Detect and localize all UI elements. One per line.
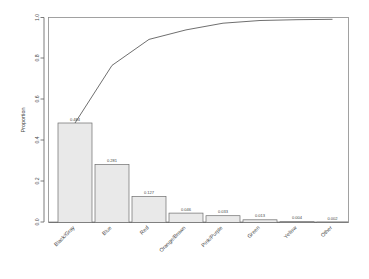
bar-value-label: 0.484 [70,117,81,122]
bar-value-label: 0.046 [181,207,192,212]
x-axis-label: Blue [101,224,113,236]
bar-value-label: 0.002 [327,216,338,221]
y-tick-label: 1.0 [34,14,40,21]
bar-value-label: 0.127 [144,190,155,195]
cumulative-line [75,19,333,123]
x-axis-label: Other [319,224,333,238]
y-tick-label: 0.8 [34,54,40,61]
bar-value-label: 0.033 [218,209,229,214]
x-axis-labels: Black/Gray Blue Red Orange/Brown Pink/Pu… [53,224,334,253]
y-tick-label: 0.4 [34,136,40,143]
bars-group [58,123,348,223]
bar-rect[interactable] [95,165,129,223]
x-axis-label: Red [138,224,149,235]
bar-rect[interactable] [58,123,92,223]
pareto-chart: 0.0 0.2 0.4 0.6 0.8 1.0 Proportion [0,0,369,279]
x-axis-label: Yellow [283,224,298,239]
bar-rect[interactable] [169,213,203,222]
bar-value-label: 0.013 [255,213,266,218]
y-axis-ticks: 0.0 0.2 0.4 0.6 0.8 1.0 [34,14,44,226]
x-axis-label: Orange/Brown [158,224,187,253]
y-tick-label: 0.6 [34,95,40,102]
y-axis-title: Proportion [20,108,26,133]
y-tick-label: 0.0 [34,218,40,225]
bar-rect[interactable] [132,197,166,223]
bar-rect[interactable] [243,220,277,223]
plot-frame [49,18,349,223]
chart-canvas: 0.0 0.2 0.4 0.6 0.8 1.0 Proportion [0,0,369,279]
y-tick-label: 0.2 [34,177,40,184]
x-axis-label: Green [246,224,261,239]
x-axis-label: Black/Gray [53,224,76,247]
bar-value-label: 0.281 [107,158,118,163]
bar-value-label: 0.004 [292,215,303,220]
x-axis-label: Pink/Purple [200,224,224,248]
bar-rect[interactable] [280,222,314,223]
bar-rect[interactable] [206,216,240,223]
